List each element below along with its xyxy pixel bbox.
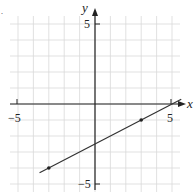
- y-axis-arrow-icon: [92, 8, 98, 16]
- data-point: [47, 166, 51, 170]
- coordinate-plane: x y −5 5 5 −5 .: [0, 0, 196, 196]
- x-tick-label-pos5: 5: [167, 111, 173, 125]
- y-axis-label: y: [80, 0, 88, 15]
- y-tick-label-pos5: 5: [84, 17, 90, 31]
- x-axis-arrow-icon: [178, 101, 186, 107]
- y-tick-label-neg5: −5: [78, 177, 91, 191]
- axes: [10, 8, 186, 190]
- x-axis-label: x: [186, 96, 193, 111]
- x-tick-label-neg5: −5: [8, 111, 21, 125]
- data-point: [139, 118, 143, 122]
- stray-dot: .: [1, 7, 3, 16]
